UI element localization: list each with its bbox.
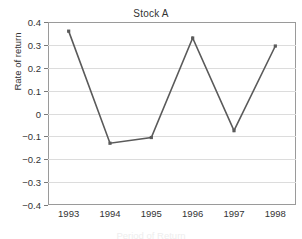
x-axis-tick-label: 1994	[99, 208, 120, 219]
x-axis-label: Period of Return	[0, 230, 302, 239]
data-point-marker	[108, 142, 111, 145]
x-axis-tick-label: 1995	[141, 208, 162, 219]
y-axis-tick-marks	[0, 22, 48, 205]
data-point-marker	[232, 129, 235, 132]
x-axis-tick-label: 1997	[223, 208, 244, 219]
x-axis-tick-label: 1993	[58, 208, 79, 219]
plot-area	[48, 22, 296, 205]
chart-figure: Stock A Rate of return 0.40.30.20.10−0.1…	[0, 0, 302, 239]
x-axis-tick-label: 1998	[265, 208, 286, 219]
data-point-marker	[274, 44, 277, 47]
x-axis-tick-label: 1996	[182, 208, 203, 219]
data-point-marker	[67, 30, 70, 33]
series-stock-a	[48, 22, 296, 205]
data-point-marker	[191, 36, 194, 39]
chart-title: Stock A	[0, 8, 302, 19]
series-line	[69, 31, 276, 143]
data-point-marker	[150, 136, 153, 139]
y-axis-tick-mark	[44, 205, 48, 206]
x-axis-tick-labels: 199319941995199619971998	[48, 208, 296, 224]
